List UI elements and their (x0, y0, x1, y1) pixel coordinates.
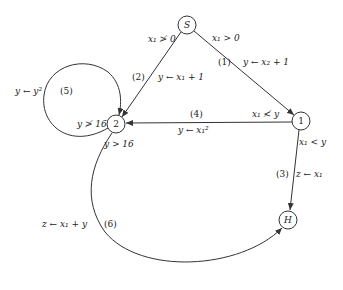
node-1: 1 (292, 112, 310, 130)
node-2: 2 (107, 115, 125, 133)
edge-5-condition: y ≯ 16 (76, 119, 107, 129)
edge-6-assignment: z ← x₁ + y (41, 219, 88, 229)
edge-1-s-to-1 (194, 31, 294, 115)
edge-4-1-to-2 (126, 122, 292, 123)
edge-6-id: (6) (104, 219, 117, 229)
flowchart-diagram: S 1 2 H x₁ > 0 (1) y ← x₂ + 1 x₁ ≯ 0 (2)… (0, 0, 343, 290)
edge-2-assignment: y ← x₁ + 1 (157, 72, 204, 82)
edge-4-id: (4) (190, 109, 203, 119)
edge-4-assignment: y ← x₁² (177, 125, 209, 135)
node-h: H (279, 211, 297, 229)
edge-3-condition: x₁ < y (299, 137, 327, 147)
edge-1-id: (1) (218, 57, 231, 67)
edge-3-assignment: z ← x₁ (295, 169, 323, 179)
edge-3-id: (3) (276, 169, 289, 179)
edge-1-condition: x₁ > 0 (212, 33, 240, 43)
edge-5-assignment: y ← y² (14, 86, 42, 96)
node-1-label: 1 (298, 116, 304, 126)
node-s-label: S (184, 20, 190, 30)
node-s: S (178, 16, 196, 34)
node-h-label: H (283, 215, 292, 225)
edge-6-2-to-h (91, 133, 282, 262)
edge-5-id: (5) (60, 86, 73, 96)
edge-1-assignment: y ← x₂ + 1 (242, 57, 289, 67)
edge-2-id: (2) (132, 72, 145, 82)
edge-2-condition: x₁ ≯ 0 (148, 34, 176, 44)
edge-6-condition: y > 16 (103, 139, 134, 149)
node-2-label: 2 (113, 119, 119, 129)
edge-4-condition: x₁ ≮ y (252, 109, 280, 119)
